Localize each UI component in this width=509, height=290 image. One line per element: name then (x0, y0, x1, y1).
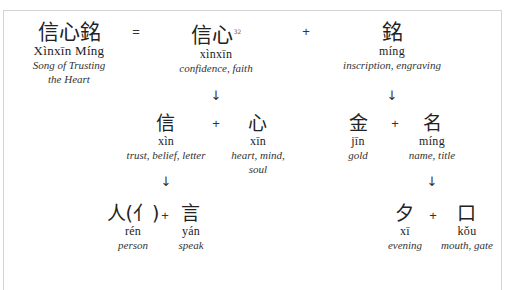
node-xin-heart: 心 xīn heart, mind, soul (231, 112, 284, 176)
kou-gloss: mouth, gate (441, 238, 493, 252)
xin-heart-pinyin: xīn (231, 134, 284, 148)
node-ren: 人(亻) rén person (107, 202, 160, 252)
yan-gloss: speak (178, 238, 203, 252)
yan-hanzi: 言 (178, 202, 203, 224)
title-gloss-line2: the Heart (33, 72, 106, 86)
xi-gloss: evening (388, 238, 422, 252)
node-xin-trust: 信 xìn trust, belief, letter (127, 112, 206, 162)
ren-gloss: person (107, 238, 160, 252)
node-yan: 言 yán speak (178, 202, 203, 252)
xi-hanzi: 夕 (388, 202, 422, 224)
ming-name-hanzi: 名 (409, 112, 455, 134)
footnote-marker: 32 (234, 28, 242, 35)
arrow-down-icon: ↓ (211, 88, 222, 103)
node-jin: 金 jīn gold (348, 112, 368, 162)
arrow-down-icon: ↓ (161, 174, 172, 189)
ming-gloss: inscription, engraving (343, 58, 441, 72)
title-gloss-line1: Song of Trusting (33, 58, 106, 72)
xin-heart-hanzi: 心 (231, 112, 284, 134)
xin-heart-gloss-line2: soul (231, 162, 284, 176)
jin-hanzi: 金 (348, 112, 368, 134)
plus-sign: + (302, 24, 310, 39)
plus-sign: + (161, 208, 169, 223)
plus-sign: + (429, 208, 437, 223)
node-xi: 夕 xī evening (388, 202, 422, 252)
plus-sign: + (212, 116, 220, 131)
kou-pinyin: kǒu (441, 224, 493, 238)
ren-pinyin: rén (107, 224, 160, 238)
xinxin-pinyin: xìnxīn (179, 47, 252, 61)
title-pinyin: Xìnxīn Míng (33, 44, 106, 58)
node-xinxin: 信心32 xìnxīn confidence, faith (179, 20, 252, 75)
node-ming: 銘 míng inscription, engraving (343, 20, 441, 72)
ren-hanzi: 人(亻) (107, 202, 160, 224)
ming-name-gloss: name, title (409, 148, 455, 162)
xin-trust-hanzi: 信 (127, 112, 206, 134)
xin-trust-pinyin: xìn (127, 134, 206, 148)
ming-pinyin: míng (343, 44, 441, 58)
jin-pinyin: jīn (348, 134, 368, 148)
xin-heart-gloss-line1: heart, mind, (231, 148, 284, 162)
arrow-down-icon: ↓ (387, 88, 398, 103)
node-ming-name: 名 míng name, title (409, 112, 455, 162)
arrow-down-icon: ↓ (427, 174, 438, 189)
xi-pinyin: xī (388, 224, 422, 238)
title-hanzi: 信心銘 (33, 20, 106, 44)
kou-hanzi: 口 (441, 202, 493, 224)
node-kou: 口 kǒu mouth, gate (441, 202, 493, 252)
xinxin-gloss: confidence, faith (179, 61, 252, 75)
ming-name-pinyin: míng (409, 134, 455, 148)
yan-pinyin: yán (178, 224, 203, 238)
equals-sign: = (132, 24, 140, 39)
ming-hanzi: 銘 (343, 20, 441, 44)
xinxin-hanzi: 信心 (191, 23, 233, 47)
plus-sign: + (391, 116, 399, 131)
xin-trust-gloss: trust, belief, letter (127, 148, 206, 162)
title-node: 信心銘 Xìnxīn Míng Song of Trusting the Hea… (33, 20, 106, 86)
jin-gloss: gold (348, 148, 368, 162)
